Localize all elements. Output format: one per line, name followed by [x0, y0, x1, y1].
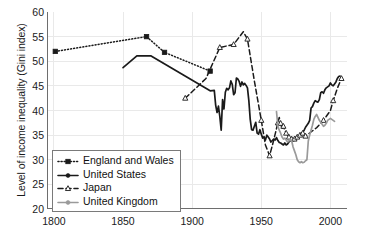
marker-square [53, 49, 57, 53]
y-tick-label: 40 [18, 105, 44, 117]
legend-key-icon [57, 168, 79, 181]
x-axis-tick-labels: 18001850190019502000 [0, 215, 376, 231]
legend-key-icon [57, 154, 79, 167]
y-tick-label: 20 [18, 203, 44, 215]
series-england-and-wales [53, 34, 212, 73]
x-tick-label: 1950 [250, 215, 273, 227]
legend-item-label: Japan [83, 181, 112, 195]
marker-triangle [321, 118, 326, 123]
legend-item-england-and-wales[interactable]: England and Wales [57, 154, 174, 168]
y-tick-label: 35 [18, 129, 44, 141]
legend-key-icon [57, 181, 79, 194]
y-axis-tick-labels: 202530354045505560 [0, 0, 44, 248]
y-tick-label: 50 [18, 55, 44, 67]
legend-item-label: England and Wales [83, 154, 174, 168]
chart-legend: England and WalesUnited StatesJapanUnite… [52, 150, 181, 212]
y-tick-label: 45 [18, 80, 44, 92]
marker-square [162, 50, 166, 54]
x-tick-label: 1900 [180, 215, 203, 227]
marker-triangle [267, 153, 272, 158]
legend-item-label: United Kingdom [83, 195, 158, 209]
series-united-states [123, 56, 340, 145]
y-tick-label: 55 [18, 31, 44, 43]
y-tick-label: 25 [18, 178, 44, 190]
legend-key-icon [57, 195, 79, 208]
marker-square [144, 34, 148, 38]
x-tick-label: 2000 [319, 215, 342, 227]
x-tick-label: 1850 [111, 215, 134, 227]
legend-item-label: United States [83, 168, 146, 182]
marker-triangle [331, 98, 336, 103]
marker-circle [66, 173, 70, 177]
series-line [55, 37, 210, 71]
marker-square [66, 160, 70, 164]
marker-circle [66, 200, 70, 204]
x-tick-label: 1800 [42, 215, 65, 227]
series-line [123, 56, 340, 145]
chart-container: Level of income inequality (Gini index) … [0, 0, 376, 248]
marker-triangle [284, 130, 289, 135]
y-tick-label: 30 [18, 154, 44, 166]
legend-item-united-kingdom[interactable]: United Kingdom [57, 195, 174, 209]
y-tick-label: 60 [18, 6, 44, 18]
marker-triangle [259, 118, 264, 123]
legend-item-united-states[interactable]: United States [57, 168, 174, 182]
legend-item-japan[interactable]: Japan [57, 181, 174, 195]
